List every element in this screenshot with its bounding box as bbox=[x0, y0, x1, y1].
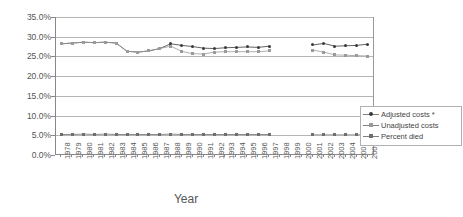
data-point bbox=[180, 133, 183, 136]
x-axis-tick-mark bbox=[203, 154, 204, 157]
data-point bbox=[246, 133, 249, 136]
data-point bbox=[71, 42, 74, 45]
y-axis-tick-label: 10.0% bbox=[27, 111, 51, 121]
x-axis-tick-mark bbox=[224, 154, 225, 157]
data-point bbox=[136, 51, 139, 54]
data-point bbox=[71, 133, 74, 136]
data-point bbox=[158, 47, 161, 50]
chart-container: 0.0%5.0%10.0%15.0%20.0%25.0%30.0%35.0% 1… bbox=[0, 0, 463, 217]
gridline bbox=[56, 37, 373, 38]
data-point bbox=[322, 133, 325, 136]
data-point bbox=[235, 133, 238, 136]
data-point bbox=[213, 51, 216, 54]
x-axis-title: Year bbox=[0, 192, 372, 206]
y-axis-tick-label: 30.0% bbox=[27, 32, 51, 42]
x-axis-tick-mark bbox=[104, 154, 105, 157]
legend-item: Percent died bbox=[363, 131, 459, 142]
data-point bbox=[322, 51, 325, 54]
data-point bbox=[191, 52, 194, 55]
x-axis-tick-mark bbox=[334, 154, 335, 157]
x-axis-tick-mark bbox=[126, 154, 127, 157]
data-point bbox=[93, 41, 96, 44]
data-point bbox=[366, 55, 369, 58]
x-axis-tick-mark bbox=[345, 154, 346, 157]
series-line bbox=[313, 43, 368, 46]
data-point bbox=[366, 43, 369, 46]
data-point bbox=[235, 46, 238, 49]
plot-area bbox=[55, 17, 374, 155]
data-point bbox=[268, 133, 271, 136]
data-point bbox=[104, 133, 107, 136]
y-axis-ticks: 0.0%5.0%10.0%15.0%20.0%25.0%30.0%35.0% bbox=[0, 0, 55, 138]
series-line bbox=[313, 50, 368, 56]
data-point bbox=[268, 45, 271, 48]
y-axis-tick-mark bbox=[51, 155, 55, 156]
x-axis-tick-mark bbox=[170, 154, 171, 157]
data-point bbox=[191, 133, 194, 136]
data-point bbox=[136, 133, 139, 136]
data-point bbox=[344, 54, 347, 57]
legend-marker-icon bbox=[363, 121, 379, 130]
gridline bbox=[56, 76, 373, 77]
legend-marker-icon bbox=[363, 110, 379, 119]
gridline bbox=[56, 56, 373, 57]
data-point bbox=[224, 50, 227, 53]
y-axis-tick-label: 25.0% bbox=[27, 51, 51, 61]
data-point bbox=[82, 41, 85, 44]
x-axis-tick-mark bbox=[82, 154, 83, 157]
legend-item-label: Percent died bbox=[379, 132, 423, 141]
data-point bbox=[333, 133, 336, 136]
data-point bbox=[355, 54, 358, 57]
data-point bbox=[126, 133, 129, 136]
legend-item-label: Unadjusted costs bbox=[379, 121, 439, 130]
legend-marker-icon bbox=[363, 132, 379, 141]
data-point bbox=[202, 133, 205, 136]
data-point bbox=[355, 44, 358, 47]
data-point bbox=[202, 53, 205, 56]
data-point bbox=[60, 133, 63, 136]
x-axis-tick-mark bbox=[71, 154, 72, 157]
x-axis-tick-mark bbox=[235, 154, 236, 157]
data-point bbox=[257, 50, 260, 53]
data-point bbox=[311, 49, 314, 52]
gridline bbox=[56, 116, 373, 117]
data-point bbox=[169, 45, 172, 48]
gridline bbox=[56, 17, 373, 18]
data-point bbox=[82, 133, 85, 136]
data-point bbox=[224, 133, 227, 136]
y-axis-tick-label: 15.0% bbox=[27, 91, 51, 101]
y-axis-tick-label: 20.0% bbox=[27, 71, 51, 81]
x-axis-ticks: 1978197919801981198219831984198519861987… bbox=[55, 157, 372, 191]
data-point bbox=[93, 133, 96, 136]
x-axis-tick-mark bbox=[356, 154, 357, 157]
x-axis-tick-mark bbox=[301, 154, 302, 157]
x-axis-tick-mark bbox=[268, 154, 269, 157]
gridline bbox=[56, 96, 373, 97]
chart-legend: Adjusted costs *Unadjusted costsPercent … bbox=[360, 106, 462, 146]
data-point bbox=[115, 42, 118, 45]
data-point bbox=[333, 45, 336, 48]
data-point bbox=[126, 50, 129, 53]
legend-item-label: Adjusted costs * bbox=[379, 110, 435, 119]
legend-item: Adjusted costs * bbox=[363, 109, 459, 120]
x-axis-tick-mark bbox=[257, 154, 258, 157]
x-axis-tick-mark bbox=[367, 154, 368, 157]
x-axis-tick-mark bbox=[148, 154, 149, 157]
data-point bbox=[257, 133, 260, 136]
data-point bbox=[180, 50, 183, 53]
y-axis-tick-label: 0.0% bbox=[32, 150, 51, 160]
x-axis-tick-mark bbox=[214, 154, 215, 157]
x-axis-tick-mark bbox=[159, 154, 160, 157]
data-point bbox=[311, 133, 314, 136]
legend-item: Unadjusted costs bbox=[363, 120, 459, 131]
x-axis-tick-mark bbox=[192, 154, 193, 157]
x-axis-tick-mark bbox=[60, 154, 61, 157]
data-point bbox=[333, 53, 336, 56]
x-axis-tick-mark bbox=[181, 154, 182, 157]
data-point bbox=[257, 46, 260, 49]
x-axis-tick-mark bbox=[246, 154, 247, 157]
data-point bbox=[202, 47, 205, 50]
x-axis-tick-mark bbox=[323, 154, 324, 157]
y-axis-tick-label: 35.0% bbox=[27, 12, 51, 22]
data-point bbox=[104, 41, 107, 44]
